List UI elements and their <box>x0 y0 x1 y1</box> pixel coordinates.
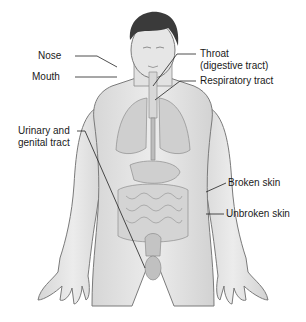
label-unbroken-skin: Unbroken skin <box>226 208 290 220</box>
esophagus <box>151 118 155 160</box>
label-throat-sub: (digestive tract) <box>200 60 268 72</box>
label-mouth: Mouth <box>32 71 60 83</box>
trachea <box>149 72 157 118</box>
label-respiratory-tract: Respiratory tract <box>200 75 273 87</box>
genitals <box>145 256 161 280</box>
label-urinary: Urinary and <box>18 125 70 137</box>
body-illustration <box>0 0 306 322</box>
bladder <box>145 234 161 257</box>
stomach <box>130 161 180 183</box>
anatomy-diagram: Nose Mouth Throat (digestive tract) Resp… <box>0 0 306 322</box>
label-throat: Throat <box>200 48 229 60</box>
label-genital-tract: genital tract <box>18 137 70 149</box>
label-nose: Nose <box>38 50 61 62</box>
label-broken-skin: Broken skin <box>228 177 280 189</box>
